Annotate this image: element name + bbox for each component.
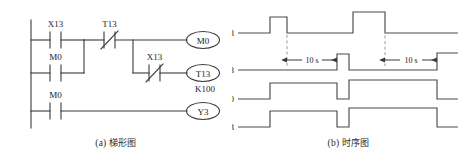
contact-m0-no-rung3[interactable]	[50, 103, 61, 119]
ladder-caption-index: (a)	[95, 138, 106, 148]
ladder-caption: (a) 梯形图	[0, 136, 232, 149]
waveform-x13	[238, 12, 458, 33]
ladder-caption-text: 梯形图	[109, 138, 137, 148]
signal-label-t13: T13	[232, 65, 234, 75]
ladder-diagram-svg: X13 T13 M0 X13 M0 M0 T13 Y3 K100	[0, 0, 232, 136]
label-contact-x13-top: X13	[48, 19, 64, 29]
label-coil-m0: M0	[197, 36, 210, 46]
label-contact-m0-mid: M0	[49, 52, 62, 62]
contact-m0-no-rung2[interactable]	[50, 65, 61, 81]
label-contact-t13-top: T13	[102, 19, 117, 29]
waveform-m0	[238, 80, 458, 99]
timing-caption-text: 时序图	[342, 138, 370, 148]
label-contact-m0-bottom: M0	[49, 90, 62, 100]
ladder-diagram-panel: X13 T13 M0 X13 M0 M0 T13 Y3 K100 (a) 梯形图	[0, 0, 232, 164]
label-timer-preset-k100: K100	[195, 84, 215, 94]
signal-label-y3: Y3	[232, 122, 234, 132]
interval-label-2: 10 s	[404, 56, 417, 65]
signal-label-m0: M0	[232, 94, 234, 104]
signal-label-x13: X13	[232, 28, 234, 38]
timing-diagram-panel: 10 s 10 s X13 T13 M0 Y3 (b) 时序图	[232, 0, 465, 164]
timing-diagram-svg: 10 s 10 s X13 T13 M0 Y3	[232, 0, 465, 136]
contact-x13-no[interactable]	[50, 32, 61, 48]
contact-t13-nc[interactable]	[101, 31, 118, 49]
contact-x13-nc[interactable]	[146, 64, 163, 82]
waveform-t13	[238, 53, 458, 70]
interval-label-1: 10 s	[305, 56, 318, 65]
figure-container: X13 T13 M0 X13 M0 M0 T13 Y3 K100 (a) 梯形图	[0, 0, 465, 164]
timing-caption: (b) 时序图	[232, 136, 465, 149]
waveform-y3	[238, 108, 458, 127]
label-coil-t13: T13	[196, 69, 211, 79]
label-contact-x13-mid: X13	[147, 52, 163, 62]
label-coil-y3: Y3	[198, 107, 209, 117]
timing-caption-index: (b)	[328, 138, 340, 148]
